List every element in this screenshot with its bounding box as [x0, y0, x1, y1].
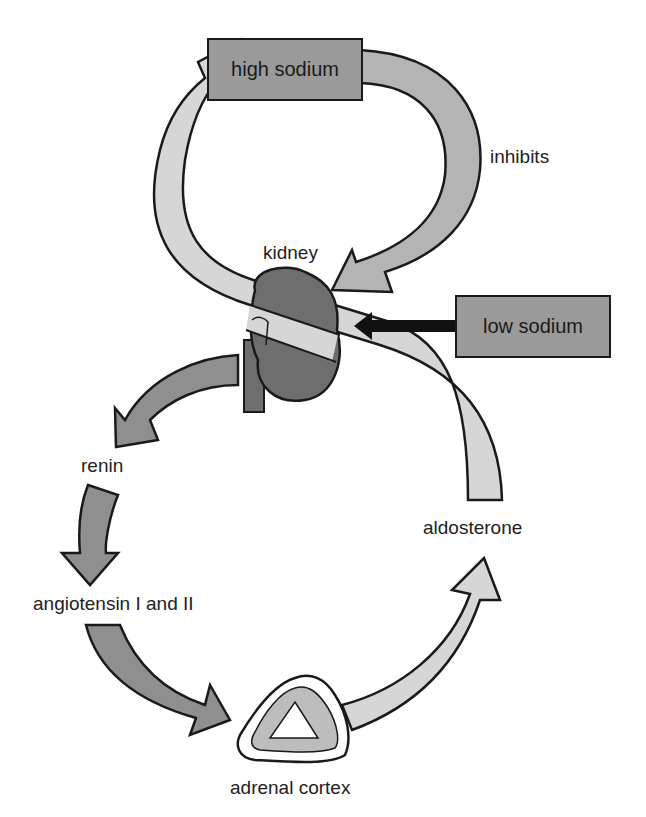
kidney-label: kidney: [263, 242, 318, 264]
low-sodium-box: low sodium: [455, 295, 611, 358]
renin-to-angiotensin-arrow: [62, 485, 118, 585]
kidney-icon: [244, 268, 340, 412]
inhibits-label: inhibits: [490, 146, 549, 168]
adrenal-cortex-icon: [238, 676, 349, 762]
angiotensin-label: angiotensin I and II: [33, 593, 194, 615]
renin-label: renin: [81, 455, 123, 477]
kidney-to-renin-arrow: [115, 355, 238, 447]
angiotensin-to-adrenal-arrow: [86, 625, 230, 735]
aldosterone-label: aldosterone: [423, 517, 522, 539]
diagram-canvas: [0, 0, 646, 817]
high-sodium-box: high sodium: [207, 38, 363, 101]
adrenal-to-aldosterone-arrow: [342, 558, 500, 730]
low-sodium-label: low sodium: [483, 315, 583, 338]
high-sodium-label: high sodium: [231, 58, 339, 81]
adrenal-cortex-label: adrenal cortex: [230, 777, 350, 799]
